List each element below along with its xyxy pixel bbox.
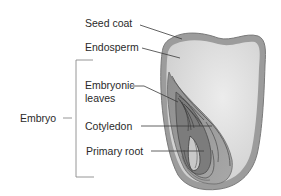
- label-embryonic-leaves-line1: Embryonic: [85, 79, 135, 91]
- label-endosperm: Endosperm: [85, 41, 139, 53]
- embryo-bracket: [63, 60, 94, 177]
- label-embryo: Embryo: [20, 112, 56, 124]
- label-embryonic-leaves-line2: leaves: [85, 92, 115, 104]
- seed-illustration: [0, 0, 281, 196]
- label-seed-coat: Seed coat: [85, 17, 132, 29]
- label-cotyledon: Cotyledon: [85, 120, 132, 132]
- seed-diagram: Seed coat Endosperm Embryonic leaves Cot…: [0, 0, 281, 196]
- label-primary-root: Primary root: [86, 145, 143, 157]
- leader-seed-coat: [140, 25, 182, 39]
